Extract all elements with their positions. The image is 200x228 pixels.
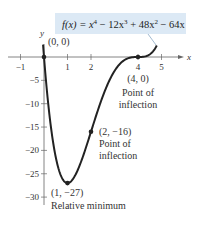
- function-graph: f(x) = x4 − 12x3 + 48x2 − 64x x y −11245…: [0, 0, 200, 228]
- point-note: Relative minimum: [51, 200, 126, 211]
- formula-leader-line: [148, 34, 156, 45]
- y-tick-label: −10: [25, 99, 40, 109]
- x-tick-label: −1: [16, 62, 26, 72]
- point-label: (1, −27): [51, 187, 83, 199]
- y-tick-label: −15: [25, 122, 40, 132]
- x-axis-arrow-icon: [178, 55, 184, 59]
- point-label: (0, 0): [48, 36, 70, 48]
- y-tick-label: −30: [25, 192, 40, 202]
- formula-callout: f(x) = x4 − 12x3 + 48x2 − 64x: [55, 13, 186, 45]
- point-marker: [136, 55, 141, 60]
- x-tick-label: 4: [136, 62, 141, 72]
- point-note: inflection: [99, 150, 137, 161]
- x-tick-label: 2: [89, 62, 94, 72]
- point-marker: [42, 55, 47, 60]
- point-note: Point of: [122, 87, 155, 98]
- y-tick-label: −25: [25, 169, 40, 179]
- point-label: (4, 0): [127, 73, 149, 85]
- point-marker: [65, 181, 70, 186]
- y-tick-label: −20: [25, 145, 40, 155]
- point-marker: [89, 129, 94, 134]
- point-note: inflection: [119, 99, 157, 110]
- point-note: Point of: [99, 138, 132, 149]
- x-axis-label: x: [186, 52, 191, 62]
- point-label: (2, −16): [99, 126, 131, 138]
- x-tick-label: 5: [159, 62, 164, 72]
- x-tick-label: 1: [65, 62, 70, 72]
- formula-text: f(x) = x4 − 12x3 + 48x2 − 64x: [62, 18, 186, 31]
- y-axis-label: y: [39, 28, 44, 38]
- y-tick-label: −5: [29, 75, 39, 85]
